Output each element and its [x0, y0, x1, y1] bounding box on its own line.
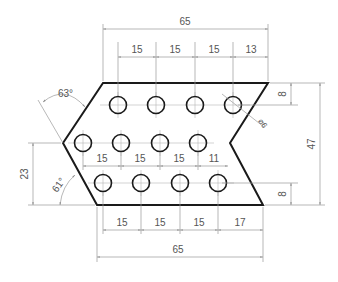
dim-right-bottom-offset: 8 [277, 191, 288, 197]
dim-left-height: 23 [19, 168, 30, 180]
top-extension-lines [103, 24, 268, 96]
dim-top-spacing-4: 13 [245, 44, 257, 55]
dim-top-spacing-3: 15 [208, 44, 220, 55]
dim-bottom-spacing-4: 17 [234, 217, 246, 228]
dim-bottom-spacing-1: 15 [116, 217, 128, 228]
dim-hole-diameter: ⌀6 [256, 117, 269, 130]
dim-right-top-offset: 8 [277, 91, 288, 97]
dim-middle-spacing-4: 11 [209, 153, 220, 164]
dim-middle-spacing-1: 15 [96, 153, 108, 164]
dim-top-spacing-1: 15 [131, 44, 143, 55]
dim-top-overall: 65 [179, 16, 191, 27]
dim-top-spacing-2: 15 [169, 44, 181, 55]
dim-angle-top: 63° [58, 88, 73, 99]
dim-bottom-overall: 65 [172, 244, 184, 255]
dim-bottom-spacing-3: 15 [193, 217, 205, 228]
dim-angle-bottom: 61° [50, 175, 68, 194]
center-lines [68, 105, 250, 183]
dim-bottom-spacing-2: 15 [154, 217, 166, 228]
technical-drawing: 65 15 15 15 13 15 15 15 11 15 [0, 0, 338, 282]
dim-right-height: 47 [306, 138, 317, 150]
plate-outline [63, 83, 268, 205]
hole-pattern [75, 92, 242, 196]
dim-middle-spacing-2: 15 [134, 153, 146, 164]
dim-middle-spacing-3: 15 [173, 153, 185, 164]
